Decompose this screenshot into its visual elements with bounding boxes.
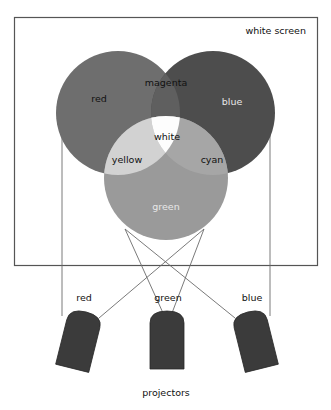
label-magenta: magenta — [145, 77, 188, 88]
label-cyan: cyan — [201, 154, 224, 165]
projector-blue — [231, 308, 278, 373]
projector-label-blue: blue — [242, 292, 263, 303]
projector-red — [56, 308, 103, 373]
projector-label-red: red — [76, 292, 92, 303]
projector-green — [150, 311, 184, 369]
additive-color-mixing-diagram: red magenta blue white yellow cyan green… — [0, 0, 331, 410]
label-yellow: yellow — [112, 154, 143, 165]
diagram-canvas: red magenta blue white yellow cyan green… — [0, 0, 331, 410]
label-white: white — [154, 131, 180, 142]
projector-label-green: green — [154, 292, 181, 303]
label-red: red — [91, 93, 107, 104]
projectors-caption: projectors — [142, 387, 190, 398]
white-screen-label: white screen — [245, 25, 306, 36]
label-blue: blue — [222, 96, 243, 107]
projectors-group: red green blue — [56, 292, 279, 373]
label-green: green — [152, 201, 179, 212]
